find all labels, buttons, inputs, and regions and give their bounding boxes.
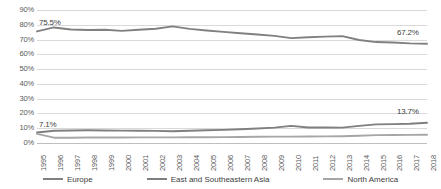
x-axis-tick-label: 2002 — [159, 155, 167, 171]
y-axis-tick-label: 30% — [20, 95, 34, 103]
x-axis-tick-label: 1999 — [108, 155, 116, 171]
series-line — [37, 26, 427, 43]
x-axis-tick-label: 2001 — [142, 155, 150, 171]
x-axis-tick-label: 1995 — [40, 155, 48, 171]
x-axis-tick-label: 2016 — [396, 155, 404, 171]
y-axis-tick-label: 70% — [20, 36, 34, 44]
x-axis-tick-label: 2013 — [346, 155, 354, 171]
x-axis-tick-label: 2007 — [244, 155, 252, 171]
series-lines — [37, 10, 427, 143]
x-axis-ticks: 1995199619971998199920002001200220032004… — [37, 145, 427, 171]
x-axis-tick-label: 2003 — [176, 155, 184, 171]
legend-swatch-icon — [323, 178, 343, 180]
x-axis-tick-label: 1996 — [57, 155, 65, 171]
x-axis-tick-label: 2006 — [227, 155, 235, 171]
data-label: 67.2% — [397, 28, 419, 37]
chart-legend: EuropeEast and Southeastern AsiaNorth Am… — [0, 172, 441, 186]
x-axis-line — [37, 143, 427, 144]
y-axis-tick-label: 0% — [24, 139, 34, 147]
x-axis-tick-label: 2009 — [278, 155, 286, 171]
x-axis-tick-label: 1997 — [74, 155, 82, 171]
legend-label: East and Southeastern Asia — [171, 175, 270, 184]
x-axis-tick-label: 1998 — [91, 155, 99, 171]
x-axis-tick-label: 2008 — [261, 155, 269, 171]
y-axis-tick-label: 90% — [20, 6, 34, 14]
y-axis-tick-label: 60% — [20, 50, 34, 58]
y-axis-tick-label: 10% — [20, 124, 34, 132]
y-axis-tick-label: 50% — [20, 65, 34, 73]
x-axis-tick-label: 2015 — [380, 155, 388, 171]
x-axis-tick-label: 2005 — [210, 155, 218, 171]
legend-swatch-icon — [147, 178, 167, 180]
legend-item[interactable]: Europe — [43, 175, 93, 184]
data-label: 13.7% — [397, 107, 419, 116]
legend-swatch-icon — [43, 178, 63, 180]
x-axis-tick-label: 2004 — [193, 155, 201, 171]
legend-item[interactable]: North America — [323, 175, 398, 184]
legend-label: Europe — [67, 175, 93, 184]
data-label: 75.5% — [39, 18, 61, 27]
x-axis-tick-label: 2010 — [295, 155, 303, 171]
x-axis-tick-label: 2012 — [329, 155, 337, 171]
x-axis-tick-label: 2011 — [312, 156, 320, 171]
series-line — [37, 123, 427, 133]
y-axis-tick-label: 40% — [20, 80, 34, 88]
data-label: 7.1% — [39, 120, 56, 129]
legend-item[interactable]: East and Southeastern Asia — [147, 175, 270, 184]
series-line — [37, 134, 427, 138]
x-axis-tick-label: 2000 — [125, 155, 133, 171]
plot-area: 75.5%67.2%7.1%13.7% — [37, 10, 427, 143]
line-chart: 75.5%67.2%7.1%13.7% 0%10%20%30%40%50%60%… — [0, 0, 441, 189]
y-axis-tick-label: 80% — [20, 21, 34, 29]
x-axis-tick-label: 2014 — [363, 155, 371, 171]
legend-label: North America — [347, 175, 398, 184]
x-axis-tick-label: 2017 — [413, 155, 421, 171]
x-axis-tick-label: 2018 — [430, 155, 438, 171]
y-axis-tick-label: 20% — [20, 109, 34, 117]
